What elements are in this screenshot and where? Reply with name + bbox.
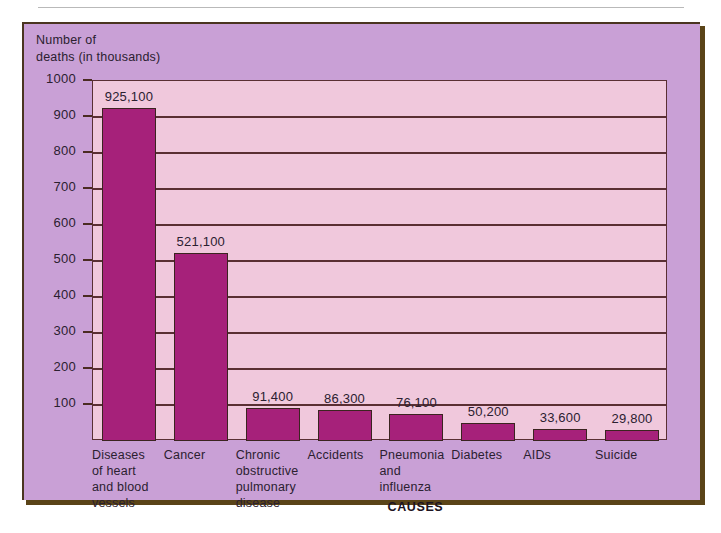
bar-value-label: 29,800 — [604, 411, 660, 426]
y-axis-title: Number of deaths (in thousands) — [36, 32, 160, 66]
bar — [461, 423, 515, 441]
x-axis-category-label: Pneumonia and influenza — [379, 447, 451, 495]
x-axis-category-label: Cancer — [164, 447, 236, 463]
y-axis-tick — [83, 295, 92, 297]
y-axis-tick — [83, 187, 92, 189]
chart-page: Number of deaths (in thousands) 10020030… — [0, 0, 721, 533]
x-axis-category-label: Accidents — [308, 447, 380, 463]
bar-value-label: 521,100 — [173, 234, 229, 249]
y-axis-tick-label: 500 — [30, 251, 76, 266]
bar-value-label: 33,600 — [532, 410, 588, 425]
y-axis-tick-label: 100 — [30, 395, 76, 410]
x-axis-category-label: Chronic obstructive pulmonary disease — [236, 447, 308, 511]
y-axis-tick-label: 1000 — [30, 71, 76, 86]
y-axis-tick — [83, 151, 92, 153]
bar — [533, 429, 587, 441]
bar — [174, 253, 228, 441]
gridline — [93, 224, 666, 226]
y-axis-tick-label: 800 — [30, 143, 76, 158]
y-axis-tick — [83, 403, 92, 405]
top-divider-rule — [38, 7, 684, 8]
y-axis-tick-label: 400 — [30, 287, 76, 302]
y-axis-tick-label: 600 — [30, 215, 76, 230]
y-axis-tick — [83, 259, 92, 261]
bar-value-label: 50,200 — [460, 404, 516, 419]
y-axis-tick-label: 200 — [30, 359, 76, 374]
y-axis-tick — [83, 223, 92, 225]
y-axis-tick-label: 700 — [30, 179, 76, 194]
figure-panel: Number of deaths (in thousands) 10020030… — [22, 22, 700, 500]
bar-value-label: 91,400 — [245, 389, 301, 404]
y-axis-tick-label: 900 — [30, 107, 76, 122]
x-axis-category-label: Suicide — [595, 447, 667, 463]
bar — [102, 108, 156, 441]
bar — [389, 414, 443, 441]
bar-value-label: 76,100 — [388, 395, 444, 410]
bar-value-label: 86,300 — [317, 391, 373, 406]
gridline — [93, 152, 666, 154]
y-axis-tick — [83, 331, 92, 333]
x-axis-category-label: Diabetes — [451, 447, 523, 463]
plot-area: 925,100521,10091,40086,30076,10050,20033… — [92, 80, 667, 440]
bar-value-label: 925,100 — [101, 89, 157, 104]
bar — [246, 408, 300, 441]
y-axis-tick-label: 300 — [30, 323, 76, 338]
gridline — [93, 188, 666, 190]
x-axis-title: CAUSES — [375, 500, 455, 514]
bar — [318, 410, 372, 441]
panel-shadow-right — [700, 26, 705, 505]
bar — [605, 430, 659, 441]
x-axis-category-label: AIDs — [523, 447, 595, 463]
y-axis-tick — [83, 115, 92, 117]
x-axis-category-label: Diseases of heart and blood vessels — [92, 447, 164, 511]
y-axis-tick — [83, 79, 92, 81]
y-axis-tick — [83, 367, 92, 369]
gridline — [93, 116, 666, 118]
